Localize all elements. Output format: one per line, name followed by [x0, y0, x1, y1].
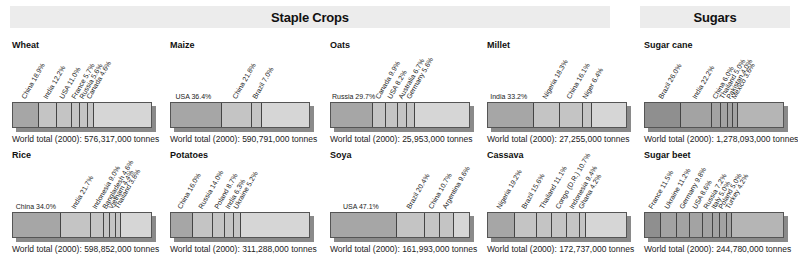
chart-millet: MilletIndia 33.2%Nigeria 18.3%China 16.1…	[487, 40, 637, 158]
world-total: World total (2000): 161,993,000 tonnes	[330, 244, 477, 254]
bar-segments	[644, 212, 784, 238]
stacked-bar	[12, 212, 152, 238]
stacked-bar	[170, 102, 310, 128]
bar-segments	[12, 102, 152, 128]
segment-label: Brazil 26.0%	[657, 62, 683, 100]
segment-label: India 33.2%	[490, 93, 527, 100]
world-total: World total (2000): 590,791,000 tonnes	[170, 134, 317, 144]
bar-segments	[170, 102, 310, 128]
chart-sugar-beet: Sugar beetFrance 11.5%Ukraine 11.2%Germa…	[644, 150, 794, 261]
bar-segments	[644, 102, 784, 128]
bar-segment-rest	[121, 213, 151, 237]
chart-cassava: CassavaNigeria 19.2%Brazil 15.6%Thailand…	[487, 150, 637, 261]
bar-segment-rest	[738, 103, 783, 127]
bar-segment	[645, 103, 681, 127]
country-labels: China 34.0%India 21.7%Indonesia 9.0%Bang…	[12, 158, 162, 210]
segment-label: Nigeria 19.2%	[495, 168, 523, 210]
bar-segment	[373, 103, 387, 127]
country-labels: USA 36.4%China 21.8%Brazil 7.0%	[170, 48, 320, 100]
bar-segment	[213, 213, 225, 237]
bar-segment	[537, 213, 553, 237]
stacked-bar	[487, 212, 627, 238]
bar-segment-rest	[241, 213, 309, 237]
bar-segment	[681, 103, 712, 127]
bar-segment	[515, 213, 537, 237]
world-total: World total (2000): 576,317,000 tonnes	[12, 134, 159, 144]
banner-sugars: Sugars	[640, 6, 790, 28]
bar-segment-rest	[592, 103, 626, 127]
bar-segment	[720, 213, 727, 237]
country-labels: Brazil 26.0%India 22.2%China 6.0%Thailan…	[644, 48, 794, 100]
stacked-bar	[644, 212, 784, 238]
world-total: World total (2000): 244,780,000 tonnes	[644, 244, 791, 254]
bar-segments	[170, 212, 310, 238]
bar-segment-rest	[415, 103, 469, 127]
chart-maize: MaizeUSA 36.4%China 21.8%Brazil 7.0%Worl…	[170, 40, 320, 158]
bar-segment	[552, 213, 567, 237]
bar-segment	[488, 213, 515, 237]
bar-segment	[560, 103, 583, 127]
bar-segments	[12, 212, 152, 238]
bar-segment	[397, 213, 426, 237]
bar-segment	[13, 213, 61, 237]
bar-segment-rest	[262, 103, 309, 127]
world-total: World total (2000): 598,852,000 tonnes	[12, 244, 159, 254]
bar-segment	[252, 103, 262, 127]
bar-segment	[567, 213, 580, 237]
stacked-bar	[330, 212, 470, 238]
bar-segment-rest	[454, 213, 469, 237]
world-total: World total (2000): 25,953,000 tonnes	[330, 134, 473, 144]
bar-segment	[91, 213, 104, 237]
bar-segment	[677, 213, 691, 237]
stacked-bar	[330, 102, 470, 128]
chart-oats: OatsRussia 29.7%Canada 9.9%USA 8.2%Austr…	[330, 40, 480, 158]
bar-segment	[713, 213, 720, 237]
world-total: World total (2000): 27,255,000 tonnes	[487, 134, 630, 144]
bar-segment	[440, 213, 453, 237]
country-labels: China 16.0%Russia 14.0%Poland 8.7%India …	[170, 158, 320, 210]
country-labels: USA 47.1%Brazil 20.4%China 10.7%Argentin…	[330, 158, 480, 210]
country-labels: Russia 29.7%Canada 9.9%USA 8.2%Australia…	[330, 48, 480, 100]
bar-segment	[193, 213, 213, 237]
chart-sugar-cane: Sugar caneBrazil 26.0%India 22.2%China 6…	[644, 40, 794, 158]
bar-segment	[225, 213, 234, 237]
country-labels: India 33.2%Nigeria 18.3%China 16.1%Niger…	[487, 48, 637, 100]
bar-segment	[712, 103, 720, 127]
bar-segment	[171, 103, 222, 127]
bar-segment	[407, 103, 415, 127]
world-total: World total (2000): 311,288,000 tonnes	[170, 244, 317, 254]
bar-segment	[61, 213, 91, 237]
stacked-bar	[487, 102, 627, 128]
bar-segment	[13, 103, 39, 127]
segment-label: China 34.0%	[16, 203, 56, 210]
world-total: World total (2000): 172,737,000 tonnes	[487, 244, 634, 254]
country-labels: Nigeria 19.2%Brazil 15.6%Thailand 11.1%C…	[487, 158, 637, 210]
bar-segment	[661, 213, 677, 237]
world-total: World total (2000): 1,278,093,000 tonnes	[644, 134, 798, 144]
bar-segment-rest	[586, 213, 626, 237]
bar-segments	[330, 212, 470, 238]
bar-segments	[330, 102, 470, 128]
bar-segments	[487, 212, 627, 238]
bar-segment	[80, 103, 88, 127]
bar-segment	[57, 103, 72, 127]
bar-segment	[690, 213, 702, 237]
chart-wheat: WheatChina 18.9%India 12.2%USA 11.0%Fran…	[12, 40, 162, 158]
country-labels: China 18.9%India 12.2%USA 11.0%France 5.…	[12, 48, 162, 100]
bar-segment	[331, 103, 373, 127]
stacked-bar	[12, 102, 152, 128]
segment-label: Brazil 7.0%	[251, 66, 275, 100]
bar-segment	[171, 213, 193, 237]
chart-potatoes: PotatoesChina 16.0%Russia 14.0%Poland 8.…	[170, 150, 320, 261]
bar-segment	[222, 103, 253, 127]
bar-segments	[487, 102, 627, 128]
stacked-bar	[170, 212, 310, 238]
segment-label: USA 47.1%	[343, 203, 379, 210]
bar-segment	[721, 103, 728, 127]
chart-rice: RiceChina 34.0%India 21.7%Indonesia 9.0%…	[12, 150, 162, 261]
bar-segment	[398, 103, 407, 127]
bar-segment	[72, 103, 80, 127]
stacked-bar	[644, 102, 784, 128]
bar-segment	[234, 213, 241, 237]
bar-segment-rest	[94, 103, 151, 127]
